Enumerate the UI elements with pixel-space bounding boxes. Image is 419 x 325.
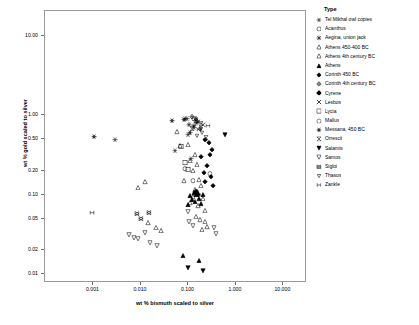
data-point: [143, 171, 148, 189]
data-point: [154, 234, 159, 252]
data-point: [92, 125, 97, 143]
legend-item[interactable]: Samos: [313, 153, 417, 162]
legend-item-label: Zankle: [325, 180, 340, 189]
y-tick-label: 0.05: [4, 215, 38, 221]
legend-item[interactable]: Orrescii: [313, 134, 417, 143]
legend-item[interactable]: Salamis: [313, 144, 417, 153]
legend-item-label: Orrescii: [325, 134, 342, 143]
x-tick-label: 0.001: [86, 286, 99, 292]
data-point: [180, 244, 185, 262]
data-point: [198, 146, 203, 164]
legend-item[interactable]: Messana, 450 BC: [313, 125, 417, 134]
legend-item[interactable]: Acanthus: [313, 24, 417, 33]
y-tick-label: 0.01: [4, 270, 38, 276]
legend-marker-icon: [313, 134, 325, 143]
legend-marker-icon: [313, 89, 325, 98]
data-point: [186, 200, 191, 218]
data-point: [179, 135, 184, 153]
data-point: [135, 176, 140, 194]
y-tick-mark: [41, 273, 44, 274]
data-point: [135, 228, 140, 246]
data-point: [213, 223, 218, 241]
y-tick-label: 1.00: [4, 111, 38, 117]
legend-item-label: Corinth 450 BC: [325, 70, 359, 79]
data-point: [186, 158, 191, 176]
y-tick-label: 0.20: [4, 167, 38, 173]
y-axis-title: wt % gold scaled to silver: [22, 53, 28, 213]
legend-item-label: Messana, 450 BC: [325, 125, 365, 134]
legend-marker-icon: [313, 24, 325, 33]
legend-marker-icon: [313, 61, 325, 70]
legend-item[interactable]: Athens 4th century BC: [313, 52, 417, 61]
data-point: [170, 110, 175, 128]
legend-marker-icon: [313, 180, 325, 189]
legend-item[interactable]: Cyrene: [313, 89, 417, 98]
legend-item-label: Aegina, union jack: [325, 33, 366, 42]
legend-item-label: Athens: [325, 61, 341, 70]
legend-item[interactable]: Zankle: [313, 180, 417, 189]
x-tick-mark: [282, 282, 283, 285]
data-point: [204, 216, 209, 234]
legend-marker-icon: [313, 116, 325, 125]
legend-item-label: Lycia: [325, 107, 337, 116]
legend-item-label: Sigloi: [325, 162, 337, 171]
data-point: [147, 231, 152, 249]
y-tick-mark: [41, 35, 44, 36]
legend-item[interactable]: Thasos: [313, 171, 417, 180]
legend-item-label: Cyrene: [325, 89, 341, 98]
legend-item[interactable]: Athens: [313, 61, 417, 70]
chart-root: 0.010.020.050.100.200.501.0010.000.0010.…: [0, 0, 419, 325]
legend-item[interactable]: Mallus: [313, 116, 417, 125]
plot-frame: [44, 10, 306, 282]
legend-item[interactable]: Corinth 450 BC: [313, 70, 417, 79]
y-tick-mark: [41, 194, 44, 195]
legend-marker-icon: [313, 52, 325, 61]
legend-marker-icon: [313, 15, 325, 24]
legend-rows: Tel Mikhal owl copiesAcanthusAegina, uni…: [313, 15, 417, 190]
chart-legend: Type Tel Mikhal owl copiesAcanthusAegina…: [313, 6, 417, 190]
legend-item[interactable]: Lycia: [313, 107, 417, 116]
data-point: [146, 201, 151, 219]
x-tick-label: 0.100: [181, 286, 194, 292]
x-axis-title: wt % bismuth scaled to silver: [44, 300, 306, 306]
legend-item[interactable]: Sigloi: [313, 162, 417, 171]
x-tick-mark: [235, 282, 236, 285]
legend-marker-icon: [313, 98, 325, 107]
data-point: [90, 201, 95, 219]
x-tick-mark: [92, 282, 93, 285]
legend-item[interactable]: Corinth 4th century BC: [313, 79, 417, 88]
y-tick-mark: [41, 218, 44, 219]
legend-marker-icon: [313, 33, 325, 42]
legend-item[interactable]: Tel Mikhal owl copies: [313, 15, 417, 24]
x-tick-mark: [187, 282, 188, 285]
legend-marker-icon: [313, 144, 325, 153]
legend-marker-icon: [313, 162, 325, 171]
legend-item[interactable]: Aegina, union jack: [313, 33, 417, 42]
y-tick-label: 0.50: [4, 135, 38, 141]
legend-item-label: Athens 4th century BC: [325, 52, 375, 61]
y-tick-mark: [41, 249, 44, 250]
data-point: [205, 114, 210, 132]
y-tick-label: 10.00: [4, 32, 38, 38]
x-tick-mark: [140, 282, 141, 285]
legend-title: Type: [324, 6, 417, 12]
legend-marker-icon: [313, 153, 325, 162]
data-point: [196, 119, 201, 137]
legend-item[interactable]: Lesbos: [313, 98, 417, 107]
x-tick-label: 1.000: [228, 286, 241, 292]
data-point: [181, 109, 186, 127]
legend-item-label: Lesbos: [325, 98, 341, 107]
legend-marker-icon: [313, 171, 325, 180]
legend-item[interactable]: Athens 450-400 BC: [313, 43, 417, 52]
legend-marker-icon: [313, 125, 325, 134]
legend-marker-icon: [313, 43, 325, 52]
data-point: [211, 174, 216, 192]
y-tick-mark: [41, 170, 44, 171]
legend-marker-icon: [313, 79, 325, 88]
legend-item-label: Mallus: [325, 116, 339, 125]
legend-marker-icon: [313, 107, 325, 116]
legend-item-label: Salamis: [325, 144, 343, 153]
data-point: [196, 183, 201, 201]
legend-item-label: Athens 450-400 BC: [325, 43, 369, 52]
x-tick-label: 0.010: [133, 286, 146, 292]
